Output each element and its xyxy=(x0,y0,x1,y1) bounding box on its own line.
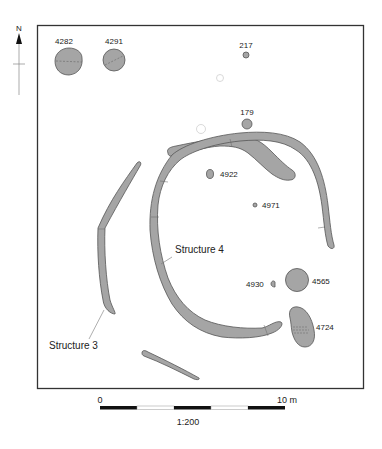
north-arrow-icon xyxy=(16,33,22,44)
feature-label: 4922 xyxy=(220,170,238,179)
leader-line xyxy=(89,310,104,339)
north-label: N xyxy=(16,24,22,33)
feature-4291: 4291 xyxy=(103,37,125,71)
feature-label: 4291 xyxy=(105,37,123,46)
structure-3-gully xyxy=(98,162,141,314)
feature-4565: 4565 xyxy=(286,269,331,292)
feature-label: 4724 xyxy=(316,323,334,332)
ghost-posthole xyxy=(217,75,224,82)
scale-bar: 0 10 m 1:200 xyxy=(97,395,297,427)
feature-179: 179 xyxy=(240,108,254,129)
structure-4-label: Structure 4 xyxy=(175,244,224,255)
feature-4922: 4922 xyxy=(207,170,239,180)
ghost-posthole xyxy=(197,125,206,134)
feature-217: 217 xyxy=(239,41,253,58)
feature-label: 179 xyxy=(240,108,254,117)
feature-4930: 4930 xyxy=(246,280,275,289)
feature-label: 217 xyxy=(239,41,253,50)
feature-label: 4565 xyxy=(312,277,330,286)
north-arrow: N xyxy=(13,24,25,95)
feature-label: 4971 xyxy=(262,201,280,210)
feature-label: 4282 xyxy=(55,37,73,46)
site-plan: N 4282 4291 217 179 xyxy=(0,0,382,449)
feature-label: 4930 xyxy=(246,280,264,289)
scale-start-label: 0 xyxy=(97,395,102,405)
structure-4-gully xyxy=(150,132,334,338)
feature-4971: 4971 xyxy=(253,201,280,210)
feature-4282: 4282 xyxy=(55,37,82,75)
scale-ratio-label: 1:200 xyxy=(177,417,200,427)
structure-3-label: Structure 3 xyxy=(49,340,98,351)
linear-gully-fragment xyxy=(142,351,199,380)
scale-end-label: 10 m xyxy=(277,395,297,405)
feature-4724: 4724 xyxy=(289,307,334,347)
